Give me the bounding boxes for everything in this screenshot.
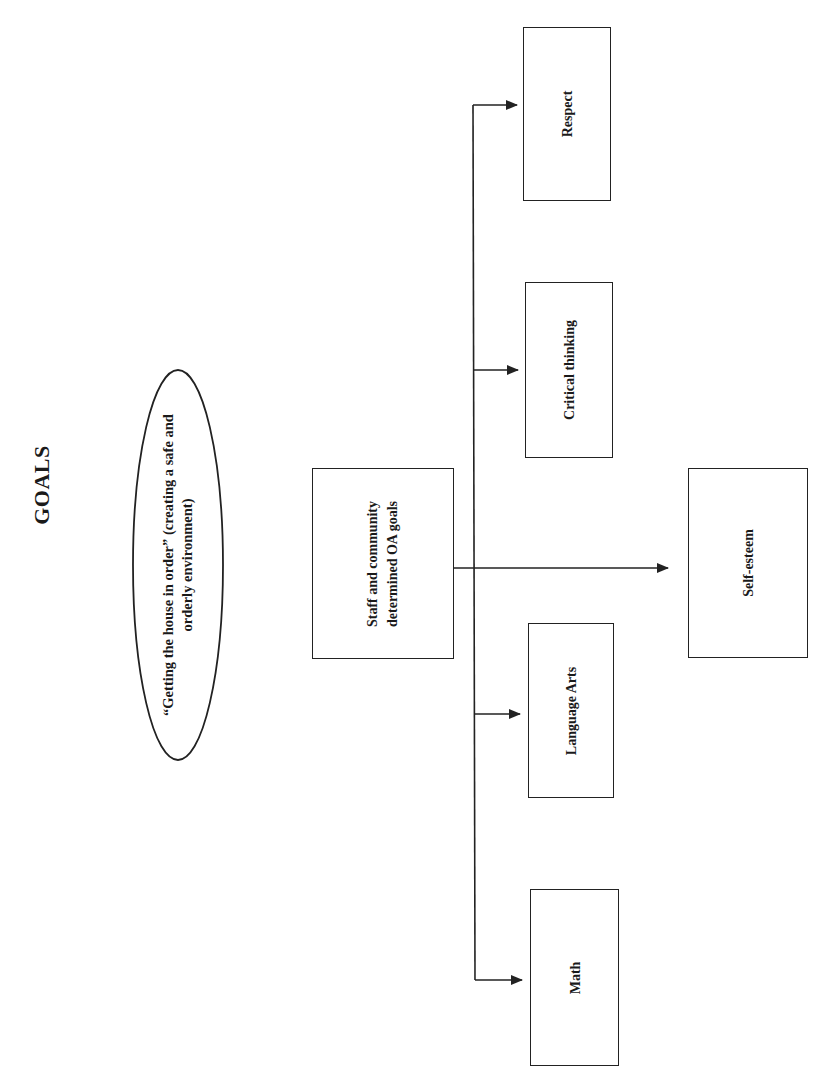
goal-box-language-arts: Language Arts bbox=[528, 623, 614, 798]
goal-box-self-esteem: Self-esteem bbox=[688, 468, 808, 658]
central-box-text: Staff and community determined OA goals bbox=[363, 479, 403, 649]
goal-box-critical-thinking: Critical thinking bbox=[525, 282, 613, 458]
goal-label-language-arts: Language Arts bbox=[563, 666, 580, 754]
goal-label-respect: Respect bbox=[559, 91, 576, 138]
goal-box-respect: Respect bbox=[523, 27, 611, 201]
goals-diagram: GOALS “Getting the house in order” (crea… bbox=[0, 0, 834, 1077]
central-box: Staff and community determined OA goals bbox=[312, 468, 454, 659]
diagram-title: GOALS bbox=[29, 445, 55, 525]
goal-label-critical-thinking: Critical thinking bbox=[561, 320, 578, 420]
goal-box-math: Math bbox=[530, 889, 619, 1066]
ellipse-text: “Getting the house in order” (creating a… bbox=[159, 400, 197, 730]
connector-trunk bbox=[473, 105, 475, 980]
goal-label-self-esteem: Self-esteem bbox=[740, 529, 757, 597]
goal-label-math: Math bbox=[566, 961, 583, 994]
